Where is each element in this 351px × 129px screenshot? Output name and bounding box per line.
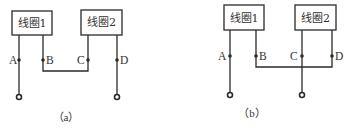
diagram-b: 线圈1 线圈2 A B C D （b）: [218, 5, 343, 119]
node-c-b: [300, 54, 304, 58]
label-a-a: A: [9, 54, 18, 66]
node-d-b: [330, 54, 334, 58]
label-d-a: D: [120, 54, 128, 66]
terminal-c-b: [300, 93, 305, 98]
node-a-b: [228, 54, 232, 58]
coil1-label-a: 线圈1: [18, 16, 47, 30]
caption-b: （b）: [238, 107, 266, 119]
label-c-b: C: [290, 50, 298, 62]
coil2-label-a: 线圈2: [87, 15, 116, 29]
label-b-a: B: [46, 54, 54, 66]
caption-a: （a）: [53, 111, 80, 123]
terminal-a-a: [17, 95, 22, 100]
node-d-a: [115, 58, 119, 62]
coil-connection-diagrams: 线圈1 线圈2 A B C D （a） 线圈1 线圈2 A: [0, 0, 351, 129]
label-a-b: A: [218, 50, 227, 62]
node-b-a: [41, 58, 45, 62]
label-c-a: C: [77, 54, 85, 66]
node-a-a: [17, 58, 21, 62]
label-d-b: D: [335, 50, 343, 62]
coil1-label-b: 线圈1: [230, 11, 259, 25]
node-b-b: [254, 54, 258, 58]
label-b-b: B: [259, 50, 267, 62]
terminal-d-a: [115, 95, 120, 100]
node-c-a: [86, 58, 90, 62]
coil2-label-b: 线圈2: [301, 11, 330, 25]
terminal-a-b: [228, 93, 233, 98]
diagram-a: 线圈1 线圈2 A B C D （a）: [9, 10, 128, 123]
